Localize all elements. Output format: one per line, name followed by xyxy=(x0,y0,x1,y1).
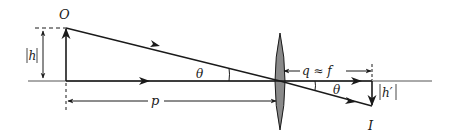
image-height-label: h′ xyxy=(382,86,393,100)
object-label: O xyxy=(59,7,70,22)
object-height-label: h xyxy=(29,49,37,63)
angle-label-upper: θ xyxy=(196,67,204,81)
chief-ray-incoming xyxy=(66,28,280,81)
angle-label-lower: θ xyxy=(333,83,341,97)
object-distance-label: p xyxy=(151,93,160,108)
angle-arc-lower xyxy=(315,81,316,90)
chief-ray-outgoing xyxy=(280,81,372,106)
image-distance-label: q ≈ f xyxy=(302,64,334,78)
ray-direction-arrow-3 xyxy=(345,97,356,104)
ray-direction-arrow-1 xyxy=(150,40,160,47)
lens-ray-diagram: h h′ θ θ p q ≈ f O I xyxy=(0,0,453,137)
image-label: I xyxy=(367,118,374,133)
angle-arc-upper xyxy=(229,68,230,81)
